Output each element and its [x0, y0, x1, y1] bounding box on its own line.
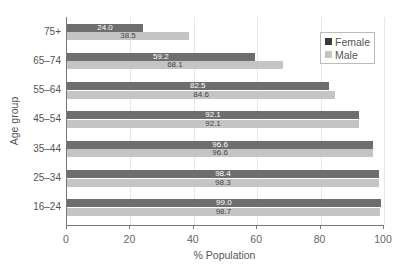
y-tick-label: 45–54: [33, 113, 61, 124]
bar-value-label: 24.0: [97, 24, 113, 32]
bar-value-label: 92.1: [205, 120, 221, 128]
bar-value-label: 98.7: [216, 208, 232, 216]
legend-label-female: Female: [335, 36, 370, 48]
y-tick-label: 35–44: [33, 143, 61, 154]
bar-value-label: 38.5: [120, 32, 136, 40]
x-tick-label: 0: [63, 233, 69, 245]
x-tick-mark: [383, 225, 384, 229]
legend-item-male: Male: [325, 48, 370, 61]
y-tick-label: 65–74: [33, 55, 61, 66]
x-tick-label: 60: [250, 233, 262, 245]
female-swatch-icon: [325, 38, 332, 45]
x-tick-mark: [320, 225, 321, 229]
bar-value-label: 68.1: [167, 61, 183, 69]
bar-value-label: 84.6: [193, 91, 209, 99]
y-tick-label: 25–34: [33, 172, 61, 183]
legend: Female Male: [320, 32, 375, 64]
x-tick-label: 40: [187, 233, 199, 245]
bar-value-label: 96.6: [212, 149, 228, 157]
legend-label-male: Male: [335, 49, 358, 61]
x-tick-label: 20: [124, 233, 136, 245]
legend-item-female: Female: [325, 35, 370, 48]
x-axis-label: % Population: [66, 249, 383, 261]
x-tick-mark: [66, 225, 67, 229]
x-tick-mark: [256, 225, 257, 229]
x-tick-mark: [193, 225, 194, 229]
bar-value-label: 98.3: [215, 179, 231, 187]
x-tick-label: 80: [314, 233, 326, 245]
y-tick-label: 16–24: [33, 201, 61, 212]
y-axis-label: Age group: [8, 97, 20, 145]
gridline: [384, 17, 385, 225]
male-swatch-icon: [325, 51, 332, 58]
y-tick-label: 55–64: [33, 84, 61, 95]
y-tick-label: 75+: [44, 26, 61, 37]
x-tick-label: 100: [374, 233, 392, 245]
x-tick-mark: [129, 225, 130, 229]
